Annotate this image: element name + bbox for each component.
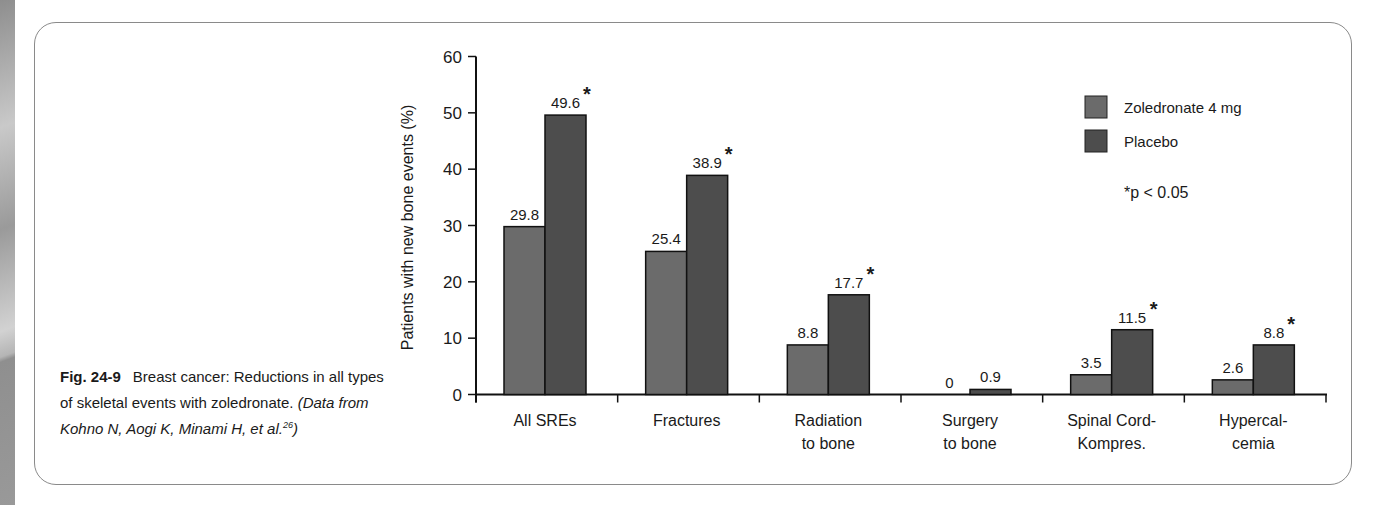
category-label: Hypercal-	[1219, 412, 1287, 429]
significance-star: *	[866, 263, 874, 285]
category-label: Fractures	[653, 412, 721, 429]
bar-placebo	[1112, 330, 1153, 395]
category-label: to bone	[802, 435, 855, 452]
y-tick-label: 30	[443, 217, 462, 236]
y-tick-label: 40	[443, 160, 462, 179]
category-label: All SREs	[513, 412, 576, 429]
category-label: Surgery	[942, 412, 998, 429]
bar-chart: 0102030405060Patients with new bone even…	[0, 0, 1389, 505]
bar-placebo	[970, 389, 1011, 394]
category-label: Radiation	[795, 412, 863, 429]
legend-swatch	[1085, 130, 1107, 152]
y-axis-label: Patients with new bone events (%)	[399, 105, 416, 350]
significance-note: *p < 0.05	[1124, 184, 1189, 201]
bar-zoledronate	[504, 227, 545, 395]
value-label: 25.4	[652, 230, 681, 247]
legend-label: Zoledronate 4 mg	[1124, 99, 1242, 116]
bar-zoledronate	[1071, 375, 1112, 395]
significance-star: *	[583, 83, 591, 105]
value-label: 0	[945, 374, 953, 391]
bar-placebo	[687, 175, 728, 394]
y-tick-label: 20	[443, 273, 462, 292]
value-label: 3.5	[1081, 354, 1102, 371]
category-label: Kompres.	[1077, 435, 1145, 452]
category-label: Spinal Cord-	[1067, 412, 1156, 429]
y-tick-label: 60	[443, 48, 462, 67]
legend-label: Placebo	[1124, 133, 1178, 150]
legend-swatch	[1085, 96, 1107, 118]
bar-placebo	[828, 295, 869, 395]
bar-zoledronate	[646, 251, 687, 394]
category-label: cemia	[1232, 435, 1275, 452]
value-label: 8.8	[797, 324, 818, 341]
y-tick-label: 50	[443, 104, 462, 123]
value-label: 38.9	[693, 154, 722, 171]
value-label: 49.6	[551, 94, 580, 111]
bar-zoledronate	[1212, 380, 1253, 395]
significance-star: *	[1287, 313, 1295, 335]
value-label: 0.9	[980, 368, 1001, 385]
category-label: to bone	[943, 435, 996, 452]
value-label: 17.7	[834, 274, 863, 291]
bar-placebo	[545, 115, 586, 394]
significance-star: *	[725, 143, 733, 165]
value-label: 2.6	[1222, 359, 1243, 376]
bar-zoledronate	[787, 345, 828, 395]
value-label: 8.8	[1263, 324, 1284, 341]
y-tick-label: 0	[453, 386, 462, 405]
y-tick-label: 10	[443, 329, 462, 348]
value-label: 29.8	[510, 206, 539, 223]
value-label: 11.5	[1118, 309, 1146, 326]
bar-placebo	[1253, 345, 1294, 395]
significance-star: *	[1150, 298, 1158, 320]
